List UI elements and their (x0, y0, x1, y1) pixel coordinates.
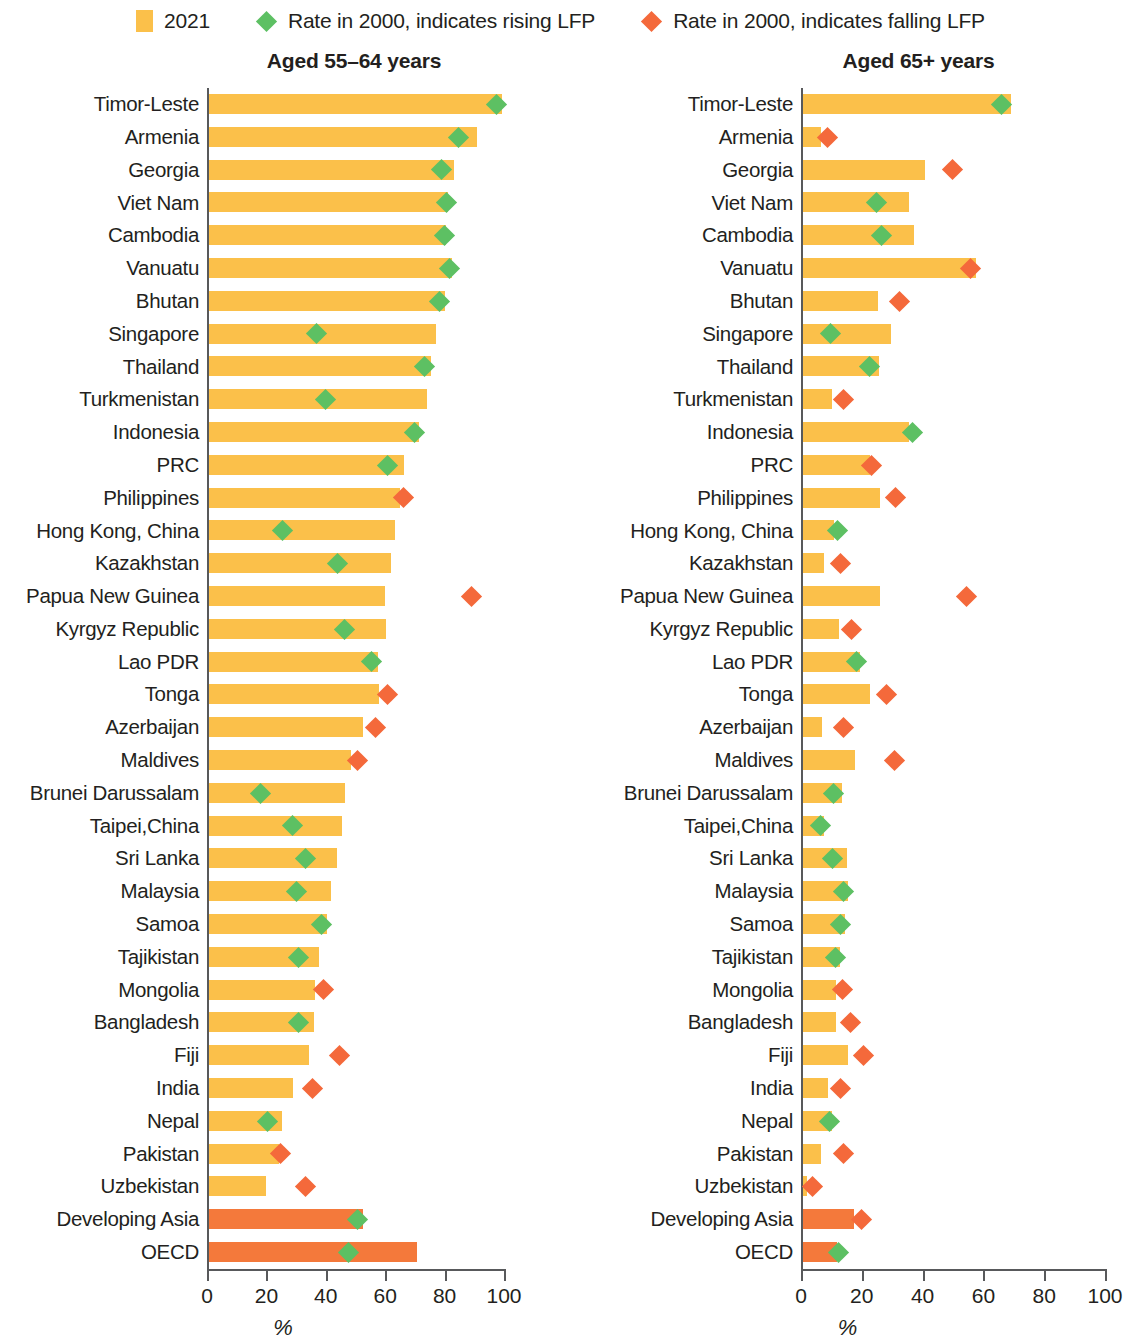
chart-row: Vanuatu (566, 252, 1129, 285)
value-bar (209, 750, 351, 770)
bar-track (207, 1138, 566, 1171)
x-axis-right: 020406080100 % (566, 1269, 1129, 1339)
value-bar (803, 291, 878, 311)
value-bar (803, 324, 891, 344)
chart-row: Tajikistan (566, 941, 1129, 974)
bar-track (207, 711, 566, 744)
bar-track (801, 383, 1129, 416)
category-label: Bhutan (566, 291, 801, 312)
bar-track (801, 646, 1129, 679)
chart-row: Fiji (566, 1039, 1129, 1072)
axis-tick-label: 60 (972, 1284, 995, 1308)
category-label: PRC (0, 455, 207, 476)
category-label: Developing Asia (0, 1209, 207, 1230)
bar-track (801, 252, 1129, 285)
category-label: Maldives (0, 750, 207, 771)
chart-row: Kazakhstan (0, 547, 566, 580)
bar-track (801, 777, 1129, 810)
axis-line-left (207, 1269, 504, 1271)
bar-track (207, 810, 566, 843)
category-label: Maldives (566, 750, 801, 771)
category-label: OECD (566, 1242, 801, 1263)
chart-row: Maldives (566, 744, 1129, 777)
bar-track (801, 613, 1129, 646)
category-label: Tajikistan (0, 947, 207, 968)
chart-row: Singapore (0, 318, 566, 351)
value-bar (209, 127, 477, 147)
bar-track (801, 1006, 1129, 1039)
chart-row: OECD (0, 1236, 566, 1269)
category-label: Vanuatu (0, 258, 207, 279)
value-bar (803, 1078, 828, 1098)
value-bar (209, 488, 400, 508)
chart-row: India (566, 1072, 1129, 1105)
category-label: Uzbekistan (566, 1176, 801, 1197)
value-bar (803, 389, 832, 409)
category-label: Bangladesh (566, 1012, 801, 1033)
rate-2000-marker (889, 291, 910, 312)
value-bar (803, 553, 824, 573)
value-bar (209, 160, 454, 180)
chart-row: Nepal (0, 1105, 566, 1138)
bar-track (801, 875, 1129, 908)
category-label: Uzbekistan (0, 1176, 207, 1197)
bar-track (207, 186, 566, 219)
value-bar (803, 586, 880, 606)
bar-track (207, 1039, 566, 1072)
bar-track (207, 1072, 566, 1105)
chart-row: Developing Asia (0, 1203, 566, 1236)
value-bar (209, 783, 345, 803)
category-label: Cambodia (566, 225, 801, 246)
value-bar (209, 881, 331, 901)
value-bar (209, 553, 391, 573)
rate-2000-marker (884, 750, 905, 771)
chart-row: Timor-Leste (0, 88, 566, 121)
chart-row: Turkmenistan (566, 383, 1129, 416)
chart-row: Viet Nam (566, 186, 1129, 219)
rate-2000-marker (461, 586, 482, 607)
bar-track (207, 318, 566, 351)
value-bar (209, 520, 395, 540)
bar-track (207, 88, 566, 121)
bar-track (207, 580, 566, 613)
chart-row: Mongolia (0, 974, 566, 1007)
chart-legend: 2021 Rate in 2000, indicates rising LFP … (0, 4, 1129, 38)
category-label: Viet Nam (566, 193, 801, 214)
chart-row: Malaysia (566, 875, 1129, 908)
value-bar (803, 750, 855, 770)
chart-row: Kyrgyz Republic (566, 613, 1129, 646)
value-bar (803, 1144, 821, 1164)
chart-row: Developing Asia (566, 1203, 1129, 1236)
chart-row: Philippines (566, 482, 1129, 515)
chart-row: Georgia (0, 154, 566, 187)
category-label: Turkmenistan (566, 389, 801, 410)
value-bar (209, 848, 337, 868)
category-label: India (0, 1078, 207, 1099)
category-label: Malaysia (566, 881, 801, 902)
rate-2000-marker (955, 586, 976, 607)
chart-row: Lao PDR (566, 646, 1129, 679)
value-bar (803, 160, 925, 180)
category-label: Pakistan (566, 1144, 801, 1165)
value-bar (209, 455, 404, 475)
bar-track (207, 449, 566, 482)
chart-row: Mongolia (566, 974, 1129, 1007)
category-label: Kazakhstan (566, 553, 801, 574)
category-label: Lao PDR (0, 652, 207, 673)
rate-2000-marker (853, 1045, 874, 1066)
value-bar (803, 258, 976, 278)
chart-row: Cambodia (0, 219, 566, 252)
chart-row: Kazakhstan (566, 547, 1129, 580)
axis-tick (1105, 1269, 1107, 1281)
bar-track (801, 941, 1129, 974)
bar-track (207, 1170, 566, 1203)
chart-row: Papua New Guinea (566, 580, 1129, 613)
chart-row: Timor-Leste (566, 88, 1129, 121)
category-label: Lao PDR (566, 652, 801, 673)
rate-2000-marker (885, 487, 906, 508)
category-label: Philippines (0, 488, 207, 509)
bar-track (801, 810, 1129, 843)
bar-track (801, 744, 1129, 777)
category-label: Thailand (0, 357, 207, 378)
value-bar (209, 914, 327, 934)
